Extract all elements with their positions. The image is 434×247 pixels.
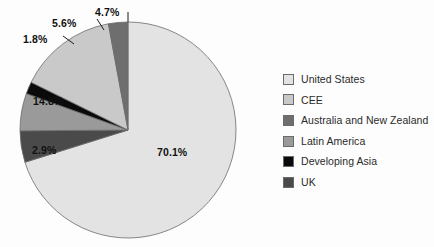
chart-canvas: 70.1% 14.8% 2.9% 5.6% 1.8% 4.7% United S… bbox=[0, 0, 434, 247]
legend-item[interactable]: Australia and New Zealand bbox=[283, 110, 431, 131]
legend-swatch-icon bbox=[283, 74, 294, 85]
legend-item-label: United States bbox=[301, 74, 365, 85]
legend-swatch-icon bbox=[283, 136, 294, 147]
slice-label-united-states: 70.1% bbox=[157, 146, 187, 158]
legend-item[interactable]: United States bbox=[283, 69, 431, 90]
slice-label-uk: 4.7% bbox=[95, 6, 119, 18]
legend-item[interactable]: CEE bbox=[283, 90, 431, 111]
legend-swatch-icon bbox=[283, 177, 294, 188]
legend-item[interactable]: UK bbox=[283, 172, 431, 193]
legend-swatch-icon bbox=[283, 115, 294, 126]
legend-item-label: CEE bbox=[301, 95, 323, 106]
legend-item[interactable]: Latin America bbox=[283, 131, 431, 152]
legend-item-label: UK bbox=[301, 177, 316, 188]
chart-legend: United StatesCEEAustralia and New Zealan… bbox=[283, 69, 431, 193]
pie-slice-group bbox=[20, 22, 236, 238]
legend-item-label: Latin America bbox=[301, 136, 365, 147]
slice-label-australia-new-zealand: 2.9% bbox=[32, 144, 56, 156]
slice-label-latin-america: 5.6% bbox=[52, 17, 76, 29]
legend-item-label: Developing Asia bbox=[301, 156, 377, 167]
legend-item[interactable]: Developing Asia bbox=[283, 151, 431, 172]
legend-swatch-icon bbox=[283, 156, 294, 167]
legend-swatch-icon bbox=[283, 94, 294, 105]
slice-label-developing-asia: 1.8% bbox=[23, 33, 47, 45]
slice-label-cee: 14.8% bbox=[33, 95, 63, 107]
legend-item-label: Australia and New Zealand bbox=[301, 115, 428, 126]
